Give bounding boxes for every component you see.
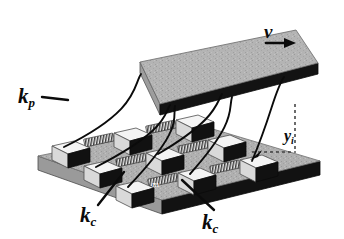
label-velocity: v	[264, 22, 272, 41]
label-kc-left-symbol: k	[80, 203, 91, 227]
label-kc-right-symbol: k	[202, 210, 213, 234]
figure-canvas: kp kc kc v yi m	[0, 0, 344, 239]
label-mass: m	[152, 179, 159, 189]
label-yi-subscript: i	[291, 135, 294, 146]
kp-leader-line	[42, 97, 68, 100]
label-v-symbol: v	[264, 21, 272, 42]
label-displacement: yi	[284, 128, 294, 146]
label-spring-pulling: kp	[18, 86, 35, 109]
schematic-svg	[0, 0, 344, 239]
label-kc-right-subscript: c	[213, 221, 219, 236]
label-kc-left-subscript: c	[91, 214, 97, 229]
label-kp-subscript: p	[29, 95, 36, 110]
label-spring-coupling-left: kc	[80, 205, 96, 228]
label-spring-coupling-right: kc	[202, 212, 218, 235]
label-kp-symbol: k	[18, 84, 29, 108]
